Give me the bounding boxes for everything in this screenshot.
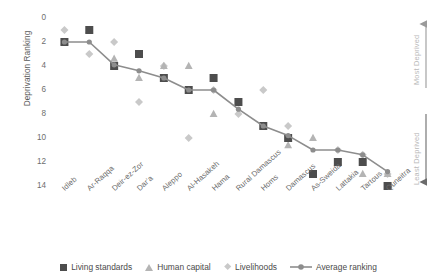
point-living-standards-1 [85, 26, 93, 34]
point-average-ranking-7 [236, 107, 241, 112]
chart-svg [52, 18, 400, 186]
point-livelihoods-3 [135, 98, 143, 106]
point-average-ranking-6 [211, 87, 216, 92]
point-living-standards-12 [359, 158, 367, 166]
legend-swatch-diamond [224, 263, 232, 271]
point-livelihoods-8 [259, 86, 267, 94]
point-average-ranking-1 [87, 39, 92, 44]
point-average-ranking-3 [136, 68, 141, 73]
point-human-capital-9 [284, 141, 292, 148]
point-average-ranking-13 [385, 169, 390, 174]
legend-item-average-ranking[interactable]: Average ranking [290, 262, 377, 272]
y-tick-0: 0 [24, 14, 46, 22]
y-axis-tick-labels: 02468101214 [22, 0, 46, 278]
point-human-capital-10 [309, 134, 317, 141]
least-deprived-label: Least Deprived [412, 132, 421, 185]
y-tick-4: 4 [24, 62, 46, 70]
legend-swatch-line [290, 263, 312, 271]
most-deprived-label: Most Deprived [412, 35, 421, 85]
point-human-capital-2 [110, 55, 118, 62]
point-human-capital-5 [185, 62, 193, 69]
point-average-ranking-10 [310, 147, 315, 152]
point-human-capital-3 [135, 74, 143, 81]
point-average-ranking-12 [360, 152, 365, 157]
point-living-standards-3 [135, 50, 143, 58]
deprivation-scale-annotation: Most Deprived Least Deprived [402, 10, 437, 190]
point-livelihoods-9 [284, 122, 292, 130]
x-axis-tick-labels: IdlebAr-RaqqaDeir-ez-ZorDar'aAleppoAl-Ha… [52, 186, 400, 244]
legend-label: Average ranking [316, 262, 377, 272]
legend-item-living-standards[interactable]: Living standards [60, 262, 132, 272]
legend-label: Living standards [71, 262, 132, 272]
point-average-ranking-0 [62, 39, 67, 44]
y-tick-2: 2 [24, 38, 46, 46]
point-average-ranking-2 [112, 62, 117, 67]
y-tick-10: 10 [24, 134, 46, 142]
legend-label: Livelihoods [235, 262, 277, 272]
point-living-standards-7 [234, 98, 242, 106]
point-average-ranking-4 [161, 75, 166, 80]
point-average-ranking-9 [286, 133, 291, 138]
point-human-capital-6 [210, 110, 218, 117]
point-livelihoods-0 [60, 26, 68, 34]
legend-item-livelihoods[interactable]: Livelihoods [224, 262, 277, 272]
y-tick-14: 14 [24, 182, 46, 190]
point-livelihoods-2 [110, 38, 118, 46]
legend-swatch-square [60, 264, 67, 271]
legend-swatch-triangle [145, 264, 153, 271]
point-livelihoods-1 [85, 50, 93, 58]
chart-legend: Living standardsHuman capitalLivelihoods… [0, 262, 437, 272]
plot-area [52, 18, 400, 186]
chart-root: Deprivation Ranking 02468101214 IdlebAr-… [0, 0, 437, 278]
point-livelihoods-5 [185, 134, 193, 142]
point-average-ranking-8 [261, 123, 266, 128]
legend-item-human-capital[interactable]: Human capital [145, 262, 211, 272]
y-tick-12: 12 [24, 158, 46, 166]
point-average-ranking-5 [186, 87, 191, 92]
y-tick-8: 8 [24, 110, 46, 118]
y-tick-6: 6 [24, 86, 46, 94]
point-living-standards-6 [210, 74, 218, 82]
legend-label: Human capital [157, 262, 211, 272]
point-average-ranking-11 [335, 147, 340, 152]
